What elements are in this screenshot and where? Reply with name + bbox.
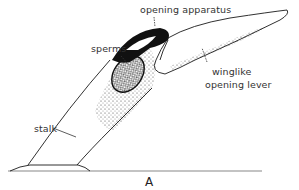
spermatophore-illustration bbox=[0, 0, 299, 190]
label-stalk: stalk bbox=[34, 124, 57, 134]
label-opening-apparatus: opening apparatus bbox=[140, 5, 231, 15]
label-winglike-line2: opening lever bbox=[205, 80, 272, 90]
label-winglike-line1: winglike bbox=[212, 67, 252, 77]
panel-label: A bbox=[145, 176, 153, 188]
diagram: opening apparatus sperms winglike openin… bbox=[0, 0, 299, 190]
label-sperms: sperms bbox=[91, 44, 126, 54]
stalk-base bbox=[10, 165, 90, 171]
leader-opening-apparatus bbox=[154, 17, 155, 27]
lever-stipple bbox=[170, 26, 268, 70]
